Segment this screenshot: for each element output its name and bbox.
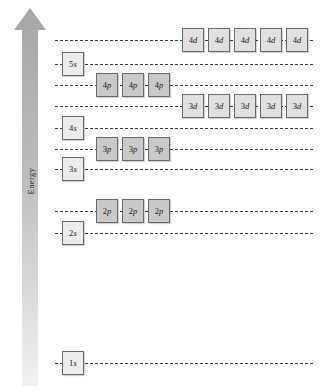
orbital-box-4d-2: 4d <box>208 28 230 52</box>
level-line-4p <box>55 85 313 86</box>
orbital-box-3d-4: 3d <box>260 94 282 118</box>
orbital-box-subshell-letter: s <box>73 229 76 238</box>
orbital-box-subshell-letter: p <box>133 145 137 154</box>
orbital-box-subshell-letter: p <box>107 207 111 216</box>
orbital-box-subshell-letter: d <box>245 102 249 111</box>
level-line-3p <box>55 149 313 150</box>
orbital-box-subshell-letter: d <box>219 102 223 111</box>
orbital-box-4d-3: 4d <box>234 28 256 52</box>
level-line-4s <box>55 128 313 129</box>
orbital-box-4d-1: 4d <box>182 28 204 52</box>
orbital-box-subshell-letter: d <box>193 102 197 111</box>
level-line-5s <box>55 64 313 65</box>
orbital-box-subshell-letter: s <box>73 124 76 133</box>
energy-axis-label: Energy <box>26 141 36 221</box>
orbital-box-subshell-letter: d <box>271 36 275 45</box>
orbital-box-subshell-letter: d <box>297 36 301 45</box>
level-line-2p <box>55 211 313 212</box>
orbital-box-subshell-letter: s <box>73 359 76 368</box>
orbital-box-subshell-letter: p <box>107 145 111 154</box>
orbital-box-4d-5: 4d <box>286 28 308 52</box>
orbital-box-subshell-letter: d <box>297 102 301 111</box>
orbital-box-subshell-letter: d <box>271 102 275 111</box>
level-line-1s <box>55 363 313 364</box>
orbital-box-3d-1: 3d <box>182 94 204 118</box>
orbital-box-3p-3: 3p <box>148 137 170 161</box>
orbital-box-subshell-letter: p <box>159 81 163 90</box>
orbital-box-subshell-letter: d <box>245 36 249 45</box>
orbital-box-3d-3: 3d <box>234 94 256 118</box>
orbital-box-subshell-letter: p <box>159 207 163 216</box>
orbital-box-4p-2: 4p <box>122 73 144 97</box>
orbital-box-2p-3: 2p <box>148 199 170 223</box>
orbital-box-subshell-letter: p <box>133 207 137 216</box>
orbital-box-3d-5: 3d <box>286 94 308 118</box>
level-line-3s <box>55 169 313 170</box>
orbital-box-subshell-letter: p <box>133 81 137 90</box>
orbital-box-1s-1: 1s <box>62 351 84 375</box>
orbital-box-3p-2: 3p <box>122 137 144 161</box>
orbital-box-2s-1: 2s <box>62 221 84 245</box>
level-line-2s <box>55 233 313 234</box>
orbital-box-2p-2: 2p <box>122 199 144 223</box>
orbital-box-3p-1: 3p <box>96 137 118 161</box>
orbital-box-3s-1: 3s <box>62 157 84 181</box>
orbital-box-4s-1: 4s <box>62 116 84 140</box>
orbital-box-5s-1: 5s <box>62 52 84 76</box>
orbital-box-subshell-letter: p <box>107 81 111 90</box>
orbital-box-4p-1: 4p <box>96 73 118 97</box>
orbital-box-subshell-letter: s <box>73 60 76 69</box>
orbital-box-4d-4: 4d <box>260 28 282 52</box>
orbital-box-subshell-letter: d <box>193 36 197 45</box>
orbital-energy-level-diagram: Energy 4d4d4d4d4d5s4p4p4p3d3d3d3d3d4s3p3… <box>0 0 329 392</box>
orbital-box-3d-2: 3d <box>208 94 230 118</box>
orbital-box-4p-3: 4p <box>148 73 170 97</box>
orbital-box-subshell-letter: d <box>219 36 223 45</box>
energy-axis-arrow: Energy <box>13 8 47 386</box>
orbital-box-2p-1: 2p <box>96 199 118 223</box>
orbital-box-subshell-letter: s <box>73 165 76 174</box>
orbital-box-subshell-letter: p <box>159 145 163 154</box>
